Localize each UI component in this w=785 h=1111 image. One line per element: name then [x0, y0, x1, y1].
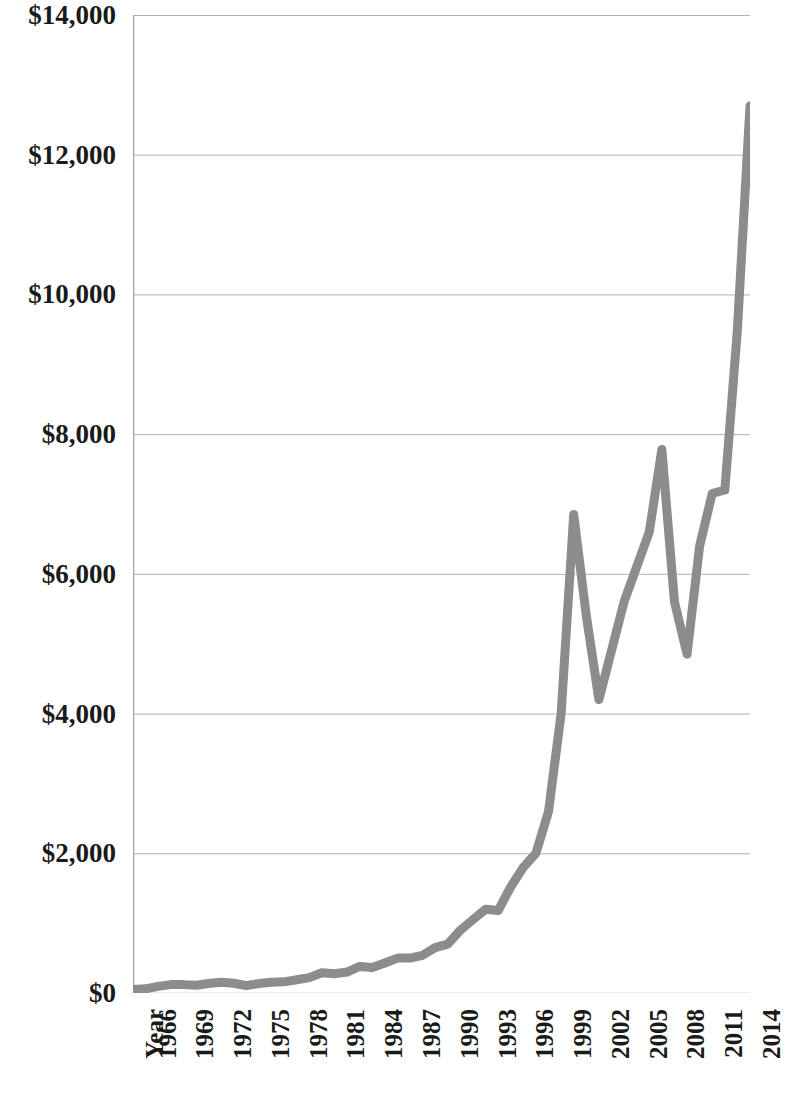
y-axis-tick-label: $14,000	[28, 0, 116, 31]
x-axis: Year196619691972197519781981198419871990…	[0, 997, 763, 1111]
x-axis-tick-label: 1984	[381, 1009, 406, 1059]
y-axis: $0$2,000$4,000$6,000$8,000$10,000$12,000…	[0, 0, 126, 1010]
x-axis-tick-label: 1996	[532, 1009, 557, 1059]
series-line	[133, 106, 750, 990]
chart-canvas	[133, 15, 750, 993]
x-axis-tick-label: 1975	[268, 1009, 293, 1059]
y-axis-tick-label: $10,000	[28, 279, 116, 310]
x-axis-tick-label: 1969	[192, 1009, 217, 1059]
x-axis-tick-label: 1972	[230, 1009, 255, 1059]
y-axis-tick-label: $2,000	[42, 838, 116, 869]
axis-lines	[133, 15, 134, 993]
x-axis-tick-label: 2011	[721, 1009, 746, 1058]
x-axis-tick-label: 1987	[419, 1009, 444, 1059]
x-axis-tick-label: 1999	[570, 1009, 595, 1059]
x-axis-tick-label: 2014	[759, 1009, 784, 1059]
x-axis-tick-label: 2002	[608, 1009, 633, 1059]
y-axis-tick-label: $8,000	[42, 419, 116, 450]
x-axis-tick-label: 2005	[646, 1009, 671, 1059]
y-axis-tick-label: $6,000	[42, 558, 116, 589]
x-axis-tick-label: 1981	[343, 1009, 368, 1059]
x-axis-tick-label: 1990	[457, 1009, 482, 1059]
x-axis-tick-label: 1978	[306, 1009, 331, 1059]
x-axis-tick-label: 1993	[495, 1009, 520, 1059]
y-axis-tick-label: $12,000	[28, 139, 116, 170]
plot-area	[133, 15, 750, 993]
x-axis-tick-label: 2008	[683, 1009, 708, 1059]
y-axis-tick-label: $4,000	[42, 698, 116, 729]
x-axis-tick-label: 1966	[155, 1009, 180, 1059]
